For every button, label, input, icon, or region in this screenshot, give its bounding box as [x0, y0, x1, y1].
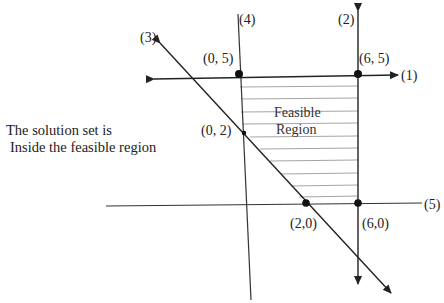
feasible-region-diagram: (1) (2) (3) (4) (5) (0, 5) (6, 5) (0, 2)…: [0, 0, 444, 303]
vertex-2-0: [302, 199, 310, 207]
solution-note-line1: The solution set is: [6, 122, 112, 138]
solution-note-line2: Inside the feasible region: [10, 139, 157, 155]
feasible-region-label-line2: Region: [276, 122, 316, 137]
feasible-region-label-line1: Feasible: [274, 105, 321, 120]
constraint-line-4: [238, 14, 251, 300]
label-constraint-3: (3): [140, 30, 157, 46]
vertex-6-5: [354, 70, 362, 78]
constraint-line-3: [160, 43, 391, 293]
label-constraint-5: (5): [424, 197, 441, 213]
label-point-0-2: (0, 2): [201, 123, 232, 139]
label-constraint-4: (4): [239, 12, 256, 28]
label-point-6-0: (6,0): [362, 216, 389, 232]
vertex-0-2: [242, 131, 246, 135]
label-point-2-0: (2,0): [290, 216, 317, 232]
vertex-6-0: [354, 199, 362, 207]
label-point-0-5: (0, 5): [203, 51, 234, 67]
label-constraint-1: (1): [401, 68, 418, 84]
constraint-line-5: [106, 203, 422, 206]
label-point-6-5: (6, 5): [359, 51, 390, 67]
vertex-0-5: [235, 70, 243, 78]
feasible-region-hatching: [240, 86, 358, 197]
label-constraint-2: (2): [338, 12, 355, 28]
